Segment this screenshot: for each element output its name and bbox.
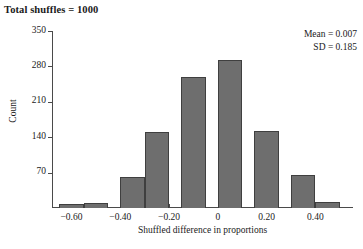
histogram-bar <box>59 204 83 208</box>
histogram-figure: Total shuffles = 1000 Mean = 0.007 SD = … <box>0 0 363 249</box>
x-tick-mark <box>169 204 170 208</box>
chart-title: Total shuffles = 1000 <box>4 4 98 15</box>
x-tick-label: −0.60 <box>46 212 98 222</box>
y-tick-mark <box>48 173 52 174</box>
histogram-bar <box>218 60 242 208</box>
y-tick-mark <box>48 102 52 103</box>
x-tick-label: −0.40 <box>94 212 146 222</box>
histogram-bar <box>291 175 315 208</box>
y-tick-label: 210 <box>22 95 46 105</box>
y-tick-mark <box>48 66 52 67</box>
y-tick-mark <box>48 137 52 138</box>
x-tick-label: 0 <box>192 212 244 222</box>
y-tick-mark <box>48 31 52 32</box>
y-tick-label: 350 <box>22 25 46 35</box>
x-tick-label: −0.20 <box>143 212 195 222</box>
x-axis-label: Shuffled difference in proportions <box>52 225 353 235</box>
y-tick-label: 280 <box>22 60 46 70</box>
histogram-bar <box>315 202 339 208</box>
histogram-bar <box>120 177 144 208</box>
y-axis-label: Count <box>8 81 18 141</box>
y-tick-label: 140 <box>22 131 46 141</box>
x-tick-label: 0.20 <box>241 212 293 222</box>
histogram-bar <box>254 131 278 208</box>
histogram-bar <box>181 77 205 208</box>
plot-area: 70140210280350 −0.60−0.40−0.2000.200.40 <box>52 31 352 208</box>
y-tick-label: 70 <box>22 166 46 176</box>
histogram-bar <box>145 132 169 208</box>
histogram-bar <box>84 203 108 208</box>
x-tick-label: 0.40 <box>289 212 341 222</box>
